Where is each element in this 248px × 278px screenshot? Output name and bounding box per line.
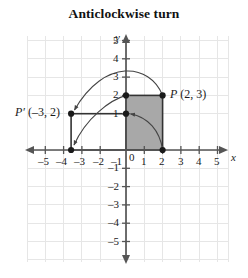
point-2-0 xyxy=(160,147,166,153)
xtick-3: 3 xyxy=(178,156,184,167)
point-label-P-prime-name: P′ xyxy=(15,105,25,119)
ytick-minus2: –2 xyxy=(108,181,119,192)
xtick-5: 5 xyxy=(214,156,220,167)
point-label-P-prime-coords: (–3, 2) xyxy=(28,105,60,119)
point-label-P-prime: P′(–3, 2) xyxy=(15,106,60,118)
xtick-minus5: –5 xyxy=(38,156,49,167)
point-label-P-name: P xyxy=(170,87,177,101)
ytick-3: 3 xyxy=(113,71,119,82)
image-rectangle-shape xyxy=(71,114,126,150)
point-0-3 xyxy=(123,92,129,98)
ytick-4: 4 xyxy=(113,53,119,64)
ytick-minus1: –1 xyxy=(108,162,119,173)
ytick-minus5: –5 xyxy=(108,236,119,247)
origin-label: 0 xyxy=(129,152,135,163)
x-axis-label: x xyxy=(231,152,236,163)
ytick-1: 1 xyxy=(113,108,119,119)
point-0-2 xyxy=(123,111,129,117)
x-axis-arrow-right xyxy=(219,146,228,154)
xtick-minus3: –3 xyxy=(74,156,85,167)
coordinate-plane xyxy=(0,0,248,278)
point-minus3-0 xyxy=(68,147,74,153)
xtick-2: 2 xyxy=(159,156,165,167)
point-label-P-coords: (2, 3) xyxy=(180,87,206,101)
point-P-prime xyxy=(68,111,74,117)
point-label-P: P(2, 3) xyxy=(170,88,206,100)
point-P xyxy=(160,92,166,98)
xtick-1: 1 xyxy=(141,156,147,167)
x-axis-arrow-left xyxy=(25,146,34,154)
y-axis-arrow-up xyxy=(122,34,130,43)
anticlockwise-turn-figure: Anticlockwise turn xyxy=(0,0,248,278)
axes xyxy=(31,41,222,257)
xtick-minus2: –2 xyxy=(93,156,104,167)
ytick-minus3: –3 xyxy=(108,199,119,210)
ytick-2: 2 xyxy=(113,89,119,100)
ytick-5: 5 xyxy=(113,35,119,46)
original-rectangle-shape xyxy=(126,95,163,150)
xtick-4: 4 xyxy=(196,156,202,167)
ytick-minus4: –4 xyxy=(108,217,119,228)
xtick-minus4: –4 xyxy=(56,156,67,167)
